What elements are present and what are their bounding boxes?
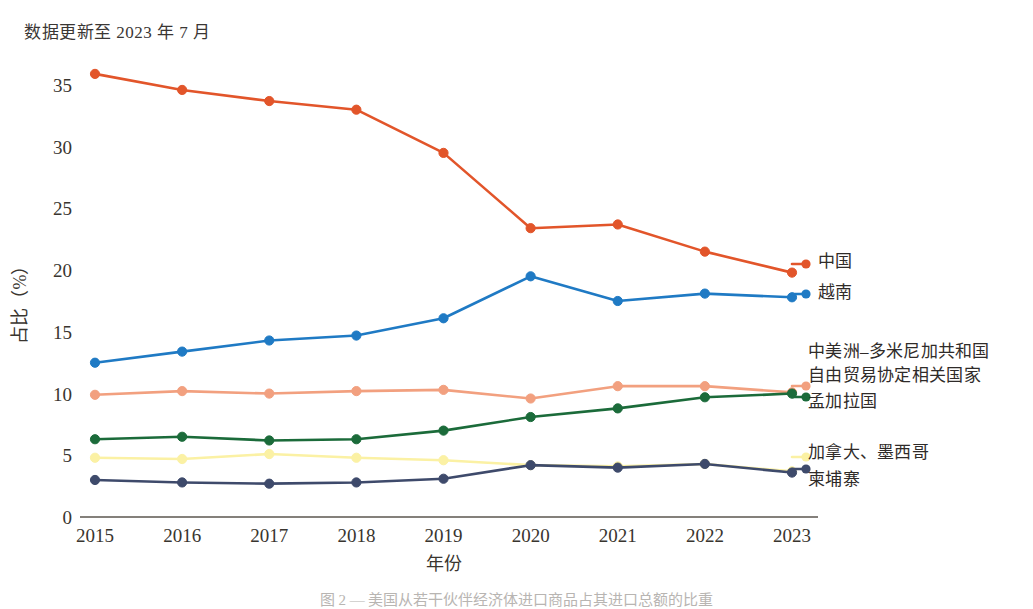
y-tick-label: 0 — [63, 507, 73, 528]
x-tick-label: 2023 — [773, 525, 811, 546]
y-tick-label: 30 — [53, 137, 72, 158]
data-point[interactable] — [90, 475, 99, 484]
data-point[interactable] — [265, 389, 274, 398]
data-point[interactable] — [265, 449, 274, 458]
legend-label-bangladesh[interactable]: 孟加拉国 — [808, 390, 877, 414]
data-point[interactable] — [439, 385, 448, 394]
data-point[interactable] — [613, 296, 622, 305]
legend-dot-marker — [801, 259, 810, 268]
data-point[interactable] — [265, 479, 274, 488]
data-point[interactable] — [90, 435, 99, 444]
x-tick-label: 2018 — [337, 525, 375, 546]
data-point[interactable] — [526, 461, 535, 470]
y-tick-label: 15 — [53, 322, 72, 343]
y-axis-title: 占比（%） — [10, 257, 30, 344]
data-point[interactable] — [526, 412, 535, 421]
legend-label-cafta-dr-line2[interactable]: 自由贸易协定相关国家 — [808, 364, 981, 388]
x-tick-label: 2021 — [599, 525, 637, 546]
data-point[interactable] — [439, 314, 448, 323]
data-point[interactable] — [526, 224, 535, 233]
data-point[interactable] — [700, 382, 709, 391]
y-tick-label: 25 — [53, 198, 72, 219]
x-tick-label: 2017 — [250, 525, 288, 546]
data-point[interactable] — [613, 463, 622, 472]
data-point[interactable] — [178, 347, 187, 356]
data-point[interactable] — [352, 105, 361, 114]
x-tick-label: 2019 — [425, 525, 463, 546]
data-point[interactable] — [178, 432, 187, 441]
y-tick-label: 10 — [53, 384, 72, 405]
data-point[interactable] — [526, 394, 535, 403]
data-point[interactable] — [700, 393, 709, 402]
data-point[interactable] — [439, 426, 448, 435]
series-line — [90, 449, 796, 475]
x-tick-label: 2022 — [686, 525, 724, 546]
series-line — [90, 272, 796, 368]
data-point[interactable] — [352, 331, 361, 340]
data-point[interactable] — [90, 390, 99, 399]
legend-label-cambodia[interactable]: 柬埔寨 — [808, 468, 860, 492]
series-polyline — [95, 74, 792, 273]
data-point[interactable] — [90, 69, 99, 78]
data-point[interactable] — [613, 404, 622, 413]
x-tick-label: 2020 — [512, 525, 550, 546]
legend-label-china[interactable]: 中国 — [818, 250, 853, 274]
data-point[interactable] — [265, 336, 274, 345]
data-point[interactable] — [613, 220, 622, 229]
data-point[interactable] — [352, 387, 361, 396]
y-axis-tick-group: 05101520253035 — [53, 75, 72, 528]
data-point[interactable] — [700, 289, 709, 298]
legend-label-vietnam[interactable]: 越南 — [818, 281, 853, 305]
data-point[interactable] — [265, 436, 274, 445]
data-point[interactable] — [178, 85, 187, 94]
data-point[interactable] — [265, 96, 274, 105]
x-tick-label: 2015 — [76, 525, 114, 546]
data-point[interactable] — [178, 387, 187, 396]
data-point[interactable] — [352, 478, 361, 487]
data-point[interactable] — [526, 272, 535, 281]
x-axis-title: 年份 — [426, 554, 462, 574]
data-point[interactable] — [439, 474, 448, 483]
legend-dot-marker — [801, 289, 810, 298]
y-tick-label: 20 — [53, 260, 72, 281]
y-tick-label: 35 — [53, 75, 72, 96]
data-point[interactable] — [700, 247, 709, 256]
series-line — [90, 389, 796, 445]
data-point[interactable] — [439, 148, 448, 157]
data-point[interactable] — [352, 435, 361, 444]
legend-label-canada-mexico[interactable]: 加拿大、墨西哥 — [808, 441, 929, 465]
data-point[interactable] — [90, 453, 99, 462]
series-line — [90, 69, 796, 277]
legend-label-cafta-dr-line1[interactable]: 中美洲–多米尼加共和国 — [808, 340, 990, 364]
figure-caption: 图 2 — 美国从若干伙伴经济体进口商品占其进口总额的比重 — [0, 588, 1033, 609]
data-point[interactable] — [90, 358, 99, 367]
data-point[interactable] — [787, 268, 796, 277]
data-point[interactable] — [178, 454, 187, 463]
data-point[interactable] — [439, 456, 448, 465]
x-tick-label: 2016 — [163, 525, 201, 546]
y-tick-label: 5 — [63, 445, 73, 466]
series-layer — [90, 69, 796, 488]
data-point[interactable] — [613, 382, 622, 391]
data-point[interactable] — [352, 453, 361, 462]
data-point[interactable] — [178, 478, 187, 487]
data-point[interactable] — [700, 459, 709, 468]
x-axis-tick-group: 201520162017201820192020202120222023 — [76, 525, 811, 546]
